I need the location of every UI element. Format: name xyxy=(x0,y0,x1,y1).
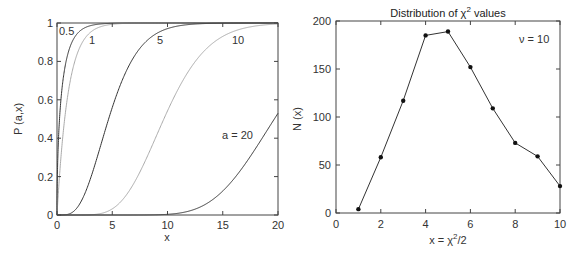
x-tick-label: 0 xyxy=(333,218,339,230)
curve-a-10 xyxy=(57,24,278,215)
x-tick-label: 8 xyxy=(512,218,518,230)
curve-label-a20: a = 20 xyxy=(222,129,253,141)
data-point xyxy=(446,29,450,33)
curve-label-a1: 1 xyxy=(89,34,95,46)
y-tick-label: 0.4 xyxy=(38,132,53,144)
curve-a-0_5 xyxy=(57,23,278,215)
x-tick-label: 15 xyxy=(217,219,229,231)
x-tick-label: 2 xyxy=(378,218,384,230)
left-chart-incomplete-gamma: 0510152000.20.40.60.81 x P (a,x) 0.5 1 5… xyxy=(12,17,284,243)
data-point xyxy=(468,65,472,69)
data-point xyxy=(423,33,427,37)
right-x-axis-label: x = χ2/2 xyxy=(429,232,466,246)
y-tick-label: 0.8 xyxy=(38,55,53,67)
y-tick-label: 150 xyxy=(313,63,331,75)
right-data-markers xyxy=(356,29,562,211)
left-axis-ticks: 0510152000.20.40.60.81 xyxy=(38,17,284,231)
x-tick-label: 0 xyxy=(54,219,60,231)
y-tick-label: 0 xyxy=(325,207,331,219)
data-point xyxy=(491,106,495,110)
data-point xyxy=(535,154,539,158)
x-tick-label: 4 xyxy=(423,218,429,230)
curve-a-5 xyxy=(57,23,278,215)
y-tick-label: 200 xyxy=(313,15,331,27)
right-y-axis-label: N (x) xyxy=(291,107,303,131)
x-tick-label: 10 xyxy=(554,218,566,230)
figure: 0510152000.20.40.60.81 x P (a,x) 0.5 1 5… xyxy=(0,0,579,258)
x-tick-label: 5 xyxy=(109,219,115,231)
right-axis-ticks: 0246810050100150200 xyxy=(313,15,566,230)
data-point xyxy=(356,207,360,211)
y-tick-label: 0.6 xyxy=(38,94,53,106)
curve-label-a5: 5 xyxy=(157,34,163,46)
y-tick-label: 0 xyxy=(47,209,53,221)
nu-annotation: ν = 10 xyxy=(519,33,549,45)
left-y-axis-label: P (a,x) xyxy=(12,103,24,135)
y-tick-label: 50 xyxy=(319,159,331,171)
data-point xyxy=(513,141,517,145)
y-tick-label: 0.2 xyxy=(38,171,53,183)
x-tick-label: 6 xyxy=(467,218,473,230)
left-plot-frame xyxy=(57,23,278,215)
data-point xyxy=(379,155,383,159)
x-tick-label: 20 xyxy=(272,219,284,231)
curve-label-a05: 0.5 xyxy=(59,25,74,37)
data-point xyxy=(558,184,562,188)
y-tick-label: 100 xyxy=(313,111,331,123)
curve-a-1 xyxy=(57,23,278,215)
x-tick-label: 10 xyxy=(161,219,173,231)
right-data-line xyxy=(358,32,560,210)
data-point xyxy=(401,98,405,102)
right-chart-title: Distribution of χ2 values xyxy=(390,5,506,19)
right-chart-chi-square-distribution: 0246810050100150200 Distribution of χ2 v… xyxy=(291,5,566,246)
y-tick-label: 1 xyxy=(47,17,53,29)
left-x-axis-label: x xyxy=(164,231,170,243)
left-curves xyxy=(57,23,278,215)
curve-label-a10: 10 xyxy=(232,34,244,46)
